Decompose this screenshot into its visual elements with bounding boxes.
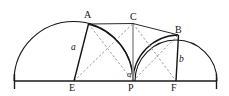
arc-group <box>14 22 217 82</box>
label-side-b: b <box>179 55 184 65</box>
label-angle-at-p: α <box>127 70 131 79</box>
label-point-e: E <box>69 83 75 93</box>
label-point-c: C <box>130 12 137 22</box>
segment-A-E <box>74 24 89 81</box>
segment-C-B <box>133 24 179 36</box>
segment-A-C <box>89 24 134 25</box>
segment-E-C <box>74 24 133 82</box>
geometry-figure: A C B E P F a b α <box>0 0 229 96</box>
geometry-canvas <box>0 0 229 96</box>
label-point-p: P <box>128 83 134 93</box>
segment-C-F <box>133 24 176 82</box>
label-point-f: F <box>171 83 177 93</box>
label-point-a: A <box>84 10 91 20</box>
label-point-b: B <box>175 25 182 35</box>
label-side-a: a <box>71 43 76 53</box>
